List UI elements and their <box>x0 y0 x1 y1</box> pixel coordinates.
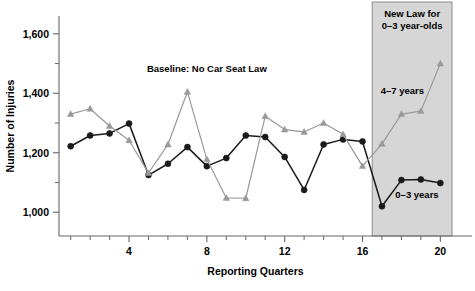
y-axis-title: Number of Injuries <box>4 79 16 172</box>
data-point <box>243 133 249 139</box>
data-point <box>262 134 268 140</box>
data-point <box>204 156 210 162</box>
data-point <box>223 155 229 161</box>
data-point <box>87 133 93 139</box>
data-point <box>165 141 171 147</box>
data-point <box>184 88 190 94</box>
y-tick-label: 1,400 <box>23 87 49 99</box>
y-tick-label: 1,600 <box>23 28 49 40</box>
data-point <box>107 130 113 136</box>
data-point <box>126 121 132 127</box>
new-law-label-line1: New Law for <box>384 8 440 19</box>
data-point <box>282 154 288 160</box>
series-label-4-7-years: 4–7 years <box>381 85 424 96</box>
data-point <box>281 126 287 132</box>
data-point <box>165 161 171 167</box>
data-point <box>262 113 268 119</box>
data-point <box>68 143 74 149</box>
data-point <box>437 180 443 186</box>
x-tick-label: 20 <box>434 245 446 257</box>
data-point <box>321 141 327 147</box>
series-label-0-3-years: 0–3 years <box>395 189 438 200</box>
data-point <box>379 203 385 209</box>
x-tick-label: 4 <box>126 245 132 257</box>
x-axis-tick-labels: 48121620 <box>126 245 446 257</box>
x-axis-title: Reporting Quarters <box>207 265 303 277</box>
injuries-line-chart: 1,0001,2001,4001,600 48121620 New Law fo… <box>0 0 475 291</box>
new-law-label-line2: 0–3 year-olds <box>382 20 443 31</box>
x-tick-label: 8 <box>204 245 210 257</box>
shaded-region-group <box>372 2 452 236</box>
chart-canvas: 1,0001,2001,4001,600 48121620 New Law fo… <box>0 0 475 291</box>
x-tick-label: 12 <box>279 245 291 257</box>
data-point <box>87 105 93 111</box>
y-tick-label: 1,000 <box>23 206 49 218</box>
data-point <box>301 187 307 193</box>
data-point <box>320 120 326 126</box>
y-axis-tick-labels: 1,0001,2001,4001,600 <box>23 28 49 218</box>
x-tick-label: 16 <box>357 245 369 257</box>
data-point <box>398 177 404 183</box>
baseline-annotation: Baseline: No Car Seat Law <box>147 63 267 74</box>
data-point <box>360 138 366 144</box>
data-point <box>126 137 132 143</box>
data-point <box>418 177 424 183</box>
data-point <box>184 144 190 150</box>
new-law-shaded-region <box>372 2 452 236</box>
y-tick-label: 1,200 <box>23 147 49 159</box>
data-point <box>340 131 346 137</box>
